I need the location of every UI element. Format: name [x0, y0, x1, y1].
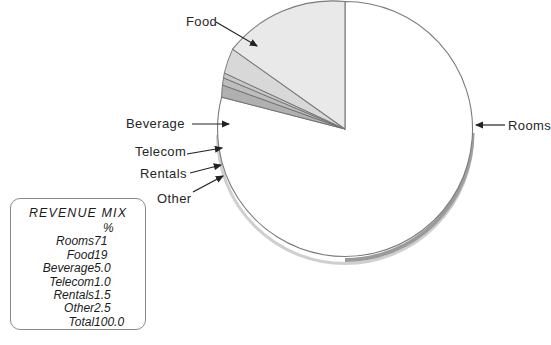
legend-header-percent: % [94, 222, 145, 235]
legend-label-rentals: Rentals [11, 289, 94, 302]
legend-label-rooms: Rooms [11, 235, 94, 248]
callout-label-rooms: Rooms [508, 118, 551, 133]
legend-row: Rentals 1.5 [11, 289, 145, 302]
legend-value-rooms: 71 [94, 235, 145, 248]
legend-value-rentals: 1.5 [94, 289, 145, 302]
callout-line-other [193, 176, 223, 192]
legend-value-total: 100.0 [94, 316, 145, 329]
legend-label-other: Other [11, 302, 94, 315]
legend-row: Food 19 [11, 249, 145, 262]
legend-row: Rooms 71 [11, 235, 145, 248]
legend-value-other: 2.5 [94, 302, 145, 315]
callout-line-telecom [187, 148, 222, 154]
legend-label-beverage: Beverage [11, 262, 94, 275]
callout-label-other: Other [157, 191, 192, 206]
callout-label-rentals: Rentals [140, 166, 187, 181]
legend-row: Beverage 5.0 [11, 262, 145, 275]
legend-label-total: Total [11, 316, 94, 329]
callout-line-rentals [190, 165, 221, 173]
revenue-mix-legend: REVENUE MIX % Rooms 71 Food 19 Beverage … [10, 198, 146, 330]
legend-table: % Rooms 71 Food 19 Beverage 5.0 Telecom … [11, 222, 145, 329]
callout-label-food: Food [186, 14, 217, 29]
legend-value-food: 19 [94, 249, 145, 262]
legend-header-row: % [11, 222, 145, 235]
legend-row: Telecom 1.0 [11, 276, 145, 289]
legend-row: Other 2.5 [11, 302, 145, 315]
callout-label-beverage: Beverage [126, 116, 185, 131]
legend-total-row: Total 100.0 [11, 316, 145, 329]
callout-label-telecom: Telecom [135, 144, 186, 159]
legend-value-telecom: 1.0 [94, 276, 145, 289]
legend-header-blank [11, 222, 94, 235]
legend-label-telecom: Telecom [11, 276, 94, 289]
legend-label-food: Food [11, 249, 94, 262]
legend-title: REVENUE MIX [11, 206, 145, 220]
legend-value-beverage: 5.0 [94, 262, 145, 275]
